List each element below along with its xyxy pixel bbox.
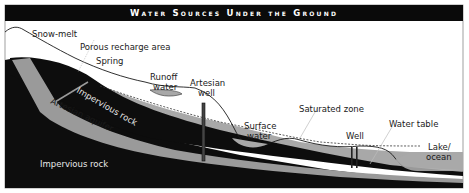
cross-section-diagram: Snow-melt Porous recharge area Spring Ru…	[0, 0, 469, 193]
diagram-title: Water Sources Under the Ground	[5, 5, 463, 21]
label-snow-melt: Snow-melt	[32, 29, 78, 39]
well-pipe-left	[351, 147, 353, 168]
label-well: Well	[346, 131, 364, 141]
label-spring: Spring	[96, 56, 123, 66]
label-impervious-lower: Impervious rock	[40, 159, 108, 169]
label-lake-2: ocean	[426, 152, 452, 162]
label-runoff-1: Runoff	[150, 72, 178, 82]
label-porous-recharge: Porous recharge area	[80, 42, 170, 52]
label-surface-1: Surface	[244, 121, 276, 131]
label-artesian-1: Artesian	[190, 78, 225, 88]
well-pipe-right	[356, 147, 358, 168]
label-artesian-2: well	[198, 88, 215, 98]
diagram-frame: Snow-melt Porous recharge area Spring Ru…	[0, 0, 469, 193]
artesian-well	[202, 103, 205, 161]
label-runoff-2: water	[153, 82, 178, 92]
label-water-table: Water table	[389, 119, 438, 129]
label-lake-1: Lake/	[428, 142, 451, 152]
label-surface-2: water	[247, 131, 272, 141]
label-saturated-zone: Saturated zone	[299, 104, 364, 114]
